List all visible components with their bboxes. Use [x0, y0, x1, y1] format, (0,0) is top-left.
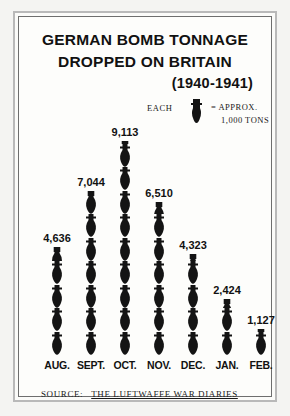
- legend-equals-label: = APPROX.: [211, 102, 258, 112]
- bomb-icon: [221, 308, 234, 332]
- bar-column-dec: 4,323: [176, 117, 210, 355]
- bomb-icon: [51, 261, 64, 285]
- bomb-icon: [255, 332, 268, 356]
- bomb-icon: [187, 308, 200, 332]
- bomb-icon: [153, 285, 166, 309]
- bar-column-aug: 4,636: [40, 117, 74, 355]
- bomb-icon: [153, 261, 166, 285]
- bomb-icon: [221, 332, 234, 356]
- bomb-icon: [153, 202, 166, 214]
- bomb-icon: [119, 238, 132, 262]
- bar-column-oct: 9,113: [108, 117, 142, 355]
- bomb-icon: [51, 285, 64, 309]
- bar-column-sept: 7,044: [74, 117, 108, 355]
- bomb-icon: [85, 285, 98, 309]
- bomb-icon: [119, 167, 132, 191]
- source-title: THE LUFTWAFFE WAR DIARIES: [91, 389, 238, 399]
- bomb-icon: [119, 308, 132, 332]
- bomb-icon: [221, 299, 234, 308]
- bar-bomb-stack: [153, 202, 166, 355]
- poster-frame-inner: GERMAN BOMB TONNAGE DROPPED ON BRITAIN (…: [18, 16, 272, 397]
- bar-bomb-stack: [255, 329, 268, 355]
- bomb-icon: [153, 214, 166, 238]
- bomb-icon: [119, 261, 132, 285]
- bar-bomb-stack: [187, 254, 200, 355]
- bar-bomb-stack: [51, 247, 64, 355]
- bomb-icon: [153, 308, 166, 332]
- x-axis-label-feb: FEB.: [239, 359, 283, 371]
- bomb-icon: [119, 191, 132, 215]
- bomb-icon: [85, 308, 98, 332]
- bar-column-nov: 6,510: [142, 117, 176, 355]
- bomb-icon: [85, 238, 98, 262]
- bomb-icon: [119, 214, 132, 238]
- bomb-icon: [187, 254, 200, 261]
- bomb-icon: [51, 332, 64, 356]
- page-title-line-1: GERMAN BOMB TONNAGE: [19, 31, 271, 49]
- bomb-icon: [85, 332, 98, 356]
- bomb-icon: [119, 285, 132, 309]
- legend-each-label: EACH: [147, 103, 173, 113]
- page-title-line-2: DROPPED ON BRITAIN: [19, 53, 271, 71]
- bomb-icon: [85, 214, 98, 238]
- bar-value-label: 1,127: [237, 314, 285, 326]
- poster-infographic: GERMAN BOMB TONNAGE DROPPED ON BRITAIN (…: [0, 0, 290, 416]
- bar-bomb-stack: [221, 299, 234, 355]
- bar-bomb-stack: [119, 141, 132, 355]
- bomb-icon: [51, 247, 64, 261]
- bar-bomb-stack: [85, 191, 98, 356]
- bomb-icon: [51, 308, 64, 332]
- bomb-icon: [85, 191, 98, 215]
- bomb-icon: [119, 332, 132, 356]
- chart-x-axis: AUG.SEPT.OCT.NOV.DEC.JAN.FEB.: [27, 359, 263, 375]
- bomb-icon: [153, 332, 166, 356]
- bomb-icon: [187, 261, 200, 285]
- bar-column-feb: 1,127: [244, 117, 278, 355]
- page-title-years: (1940-1941): [172, 75, 253, 91]
- bomb-icon: [187, 332, 200, 356]
- bomb-icon: [85, 261, 98, 285]
- source-label: SOURCE:: [41, 389, 83, 399]
- bomb-icon: [153, 238, 166, 262]
- source-note: SOURCE:THE LUFTWAFFE WAR DIARIES: [41, 389, 238, 399]
- poster-frame-outer: GERMAN BOMB TONNAGE DROPPED ON BRITAIN (…: [13, 11, 277, 402]
- chart-plot-area: 4,6367,0449,1136,5104,3232,4241,127: [27, 117, 263, 355]
- bomb-icon: [119, 144, 132, 168]
- bomb-icon: [187, 285, 200, 309]
